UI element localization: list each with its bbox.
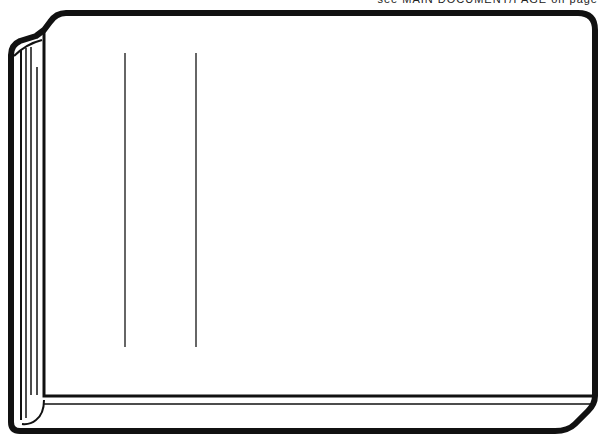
book-cover-outline [11, 13, 595, 431]
book-illustration [0, 0, 604, 444]
